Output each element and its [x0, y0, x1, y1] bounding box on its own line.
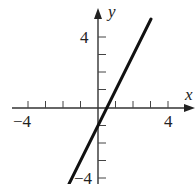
coordinate-plane: −4 4 4 −4 y x — [0, 0, 195, 184]
y-axis-arrow-icon — [94, 8, 102, 19]
x-tick-label-4: 4 — [164, 112, 173, 131]
x-axis-arrow-icon — [184, 104, 195, 112]
x-tick-label-neg4: −4 — [13, 112, 32, 131]
y-tick-label-4: 4 — [80, 28, 89, 47]
y-tick-label-neg4: −4 — [74, 169, 93, 184]
y-axis-label: y — [106, 2, 116, 21]
x-axis-label: x — [184, 85, 193, 104]
